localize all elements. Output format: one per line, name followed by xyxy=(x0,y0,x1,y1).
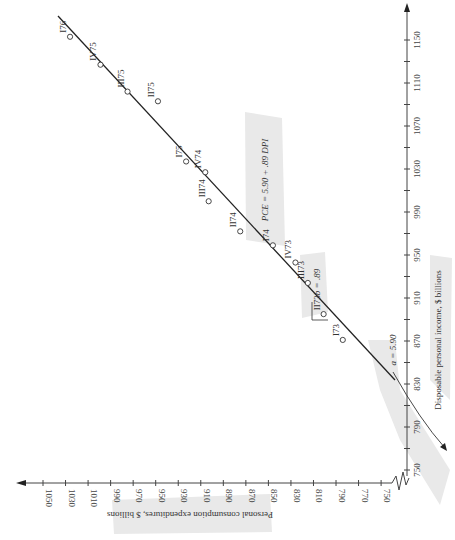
data-point xyxy=(305,280,310,285)
pce-axis: 7507707908108308508708909109309509709901… xyxy=(16,472,409,508)
dpi-tick-label: 870 xyxy=(412,334,422,348)
pce-tick-label: 950 xyxy=(157,489,167,503)
dpi-tick-label: 750 xyxy=(412,463,422,477)
data-point-label: II75 xyxy=(146,82,156,97)
data-point-label: I73 xyxy=(331,323,341,335)
data-point-label: I76 xyxy=(58,20,68,32)
data-point xyxy=(270,243,275,248)
pce-tick-label: 910 xyxy=(202,489,212,503)
intercept-label: a = 5.90 xyxy=(388,334,398,365)
data-point xyxy=(238,229,243,234)
data-point xyxy=(340,337,345,342)
data-point xyxy=(203,170,208,175)
dpi-tick-label: 1070 xyxy=(412,117,422,136)
data-point-label: IV75 xyxy=(88,42,98,61)
pce-tick-label: 1010 xyxy=(89,489,99,508)
slope-label: b = .89 xyxy=(312,268,322,295)
data-point xyxy=(155,99,160,104)
dpi-tick-label: 990 xyxy=(412,205,422,219)
data-point-label: II74 xyxy=(228,212,238,227)
pce-tick-label: 850 xyxy=(269,489,279,503)
data-point xyxy=(321,312,326,317)
data-point-label: IV73 xyxy=(283,240,293,259)
data-point xyxy=(125,89,130,94)
pce-tick-label: 810 xyxy=(314,489,324,503)
x-axis-title: Disposable personal income, $ billions xyxy=(433,270,443,410)
dpi-tick-label: 1030 xyxy=(412,160,422,179)
data-point-label: III74 xyxy=(197,179,207,197)
pce-tick-label: 830 xyxy=(292,489,302,503)
regression-line xyxy=(58,16,395,380)
data-point xyxy=(67,34,72,39)
pce-tick-label: 990 xyxy=(112,489,122,503)
pce-tick-label: 1030 xyxy=(67,489,77,508)
data-point xyxy=(293,260,298,265)
regression-chart: 7507707908108308508708909109309509709901… xyxy=(0,0,455,540)
pce-tick-label: 770 xyxy=(360,489,370,503)
data-point-label: I75 xyxy=(174,145,184,157)
dpi-tick-label: 830 xyxy=(412,377,422,391)
dpi-tick-label: 1150 xyxy=(412,31,422,49)
pce-tick-label: 790 xyxy=(337,489,347,503)
pce-tick-label: 970 xyxy=(134,489,144,503)
data-point xyxy=(206,199,211,204)
dpi-tick-label: 1110 xyxy=(412,74,422,92)
pce-tick-label: 1050 xyxy=(44,489,54,508)
data-point-label: I74 xyxy=(261,229,271,241)
dpi-tick-label: 910 xyxy=(412,291,422,305)
data-point xyxy=(184,159,189,164)
data-point xyxy=(98,62,103,67)
pce-tick-label: 750 xyxy=(382,489,392,503)
dpi-tick-label: 950 xyxy=(412,248,422,262)
data-point-label: III75 xyxy=(116,69,126,87)
y-axis-title: Personal consumption expenditures, $ bil… xyxy=(106,510,273,520)
pce-tick-label: 890 xyxy=(224,489,234,503)
data-point-label: IV74 xyxy=(193,149,203,168)
pce-tick-label: 870 xyxy=(247,489,257,503)
data-point-label: II73 xyxy=(312,295,322,310)
dpi-tick-label: 790 xyxy=(412,420,422,434)
pce-tick-label: 930 xyxy=(179,489,189,503)
highlight-bands xyxy=(112,112,452,534)
equation-label: PCE = 5.90 + .89 DPI xyxy=(260,138,270,222)
